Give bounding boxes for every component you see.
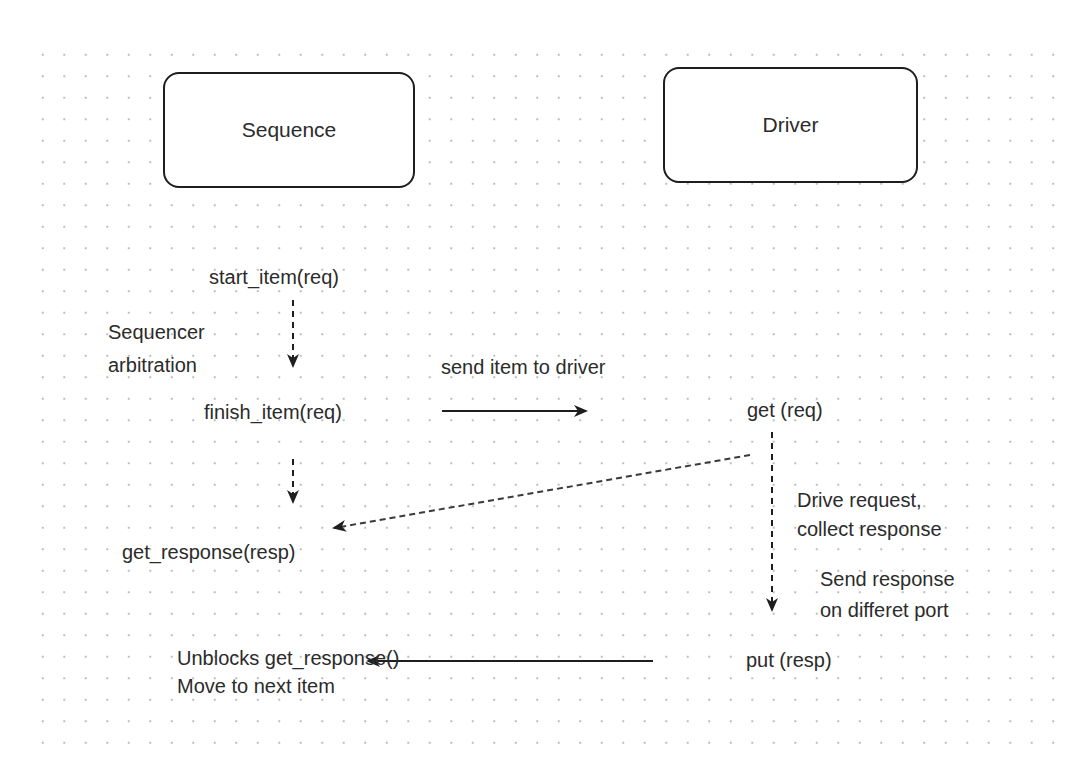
get-req-label: get (req) [747,398,823,423]
put-resp-label: put (resp) [746,648,832,673]
arrows-layer [0,0,1089,772]
sequencer-arbitration-label-1: Sequencer [108,320,205,345]
driver-to-get-response-arrow [334,455,750,528]
diagram-canvas: Sequence Driver start_item(req) Sequence… [0,0,1089,772]
get-response-label: get_response(resp) [122,540,295,565]
start-item-label: start_item(req) [209,265,339,290]
finish-item-label: finish_item(req) [204,400,342,425]
unblocks-label-1: Unblocks get_response() [177,646,399,671]
drive-request-label-1: Drive request, [797,488,922,513]
drive-request-label-2: collect response [797,517,942,542]
send-response-label-2: on differet port [820,598,949,623]
send-item-to-driver-label: send item to driver [441,355,606,380]
sequencer-arbitration-label-2: arbitration [108,353,197,378]
unblocks-label-2: Move to next item [177,674,335,699]
send-response-label-1: Send response [820,567,955,592]
